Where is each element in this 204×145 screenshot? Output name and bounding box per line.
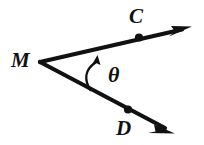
point-c-dot xyxy=(135,33,143,41)
angle-diagram-svg xyxy=(0,0,204,145)
ray-mc-group xyxy=(40,26,192,62)
angle-label-theta: θ xyxy=(108,64,119,86)
angle-arc-group xyxy=(86,55,100,90)
ray-mc-line xyxy=(40,30,182,63)
point-d-dot xyxy=(124,105,132,113)
geometry-figure: M C D θ xyxy=(0,0,204,145)
point-label-d: D xyxy=(116,118,131,139)
angle-arc-path xyxy=(86,63,95,91)
point-label-c: C xyxy=(129,6,143,27)
ray-md-line xyxy=(40,62,165,128)
vertex-label-m: M xyxy=(11,50,30,71)
angle-arc-arrowhead xyxy=(92,55,101,65)
